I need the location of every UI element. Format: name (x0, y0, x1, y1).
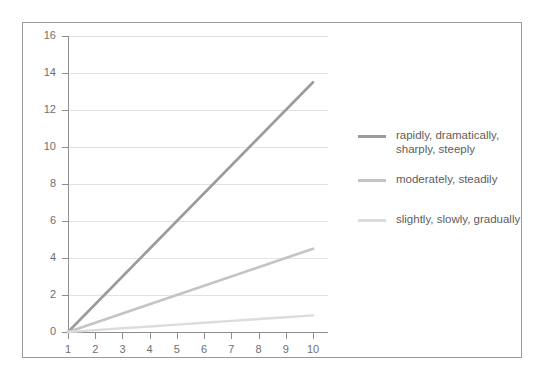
series-line (68, 249, 313, 332)
series-line (68, 315, 313, 332)
legend-swatch-line-icon (358, 219, 386, 222)
legend-swatch-line-icon (358, 179, 386, 182)
legend-swatch-line-icon (358, 135, 386, 138)
legend-item[interactable]: moderately, steadily (358, 172, 528, 190)
chart-legend: rapidly, dramatically,sharply, steeplymo… (358, 128, 528, 230)
legend-label-line: moderately, steadily (396, 172, 528, 186)
legend-label: rapidly, dramatically,sharply, steeply (396, 128, 528, 156)
chart-screenshot: 0246810121416 12345678910 rapidly, drama… (0, 0, 546, 380)
legend-label-line: sharply, steeply (396, 142, 528, 156)
legend-label-line: slightly, slowly, gradually (396, 212, 528, 226)
legend-label-line: rapidly, dramatically, (396, 128, 528, 142)
legend-item[interactable]: rapidly, dramatically,sharply, steeply (358, 128, 528, 156)
legend-label: moderately, steadily (396, 172, 528, 186)
series-line (68, 82, 313, 332)
legend-label: slightly, slowly, gradually (396, 212, 528, 226)
legend-item[interactable]: slightly, slowly, gradually (358, 212, 528, 230)
